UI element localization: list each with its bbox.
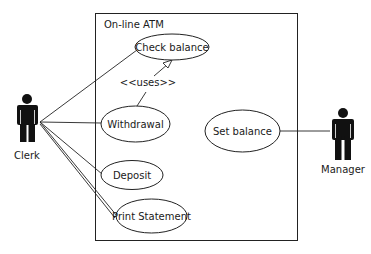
- actor-label-manager: Manager: [321, 164, 366, 175]
- actor-label-clerk: Clerk: [14, 150, 40, 161]
- uses-label: <<uses>>: [120, 77, 176, 88]
- person-icon: [332, 108, 354, 160]
- uses-dependency-line-lower: [137, 92, 146, 106]
- assoc-clerk-withdrawal: [40, 122, 101, 123]
- system-title: On-line ATM: [104, 19, 164, 30]
- use-case-check-balance: Check balance: [135, 34, 209, 60]
- use-case-print-statement: Print Statement: [112, 199, 191, 233]
- use-case-diagram: On-line ATM <<uses>> Check balance Withd…: [0, 0, 371, 254]
- associations: [40, 50, 330, 218]
- svg-text:Print Statement: Print Statement: [112, 211, 191, 222]
- svg-text:Set balance: Set balance: [213, 126, 272, 137]
- svg-text:Deposit: Deposit: [113, 170, 151, 181]
- svg-text:Withdrawal: Withdrawal: [107, 119, 163, 130]
- use-case-deposit: Deposit: [101, 161, 163, 190]
- svg-text:Check balance: Check balance: [135, 42, 208, 53]
- use-case-withdrawal: Withdrawal: [101, 106, 170, 142]
- actor-clerk: Clerk: [14, 94, 40, 161]
- use-case-set-balance: Set balance: [205, 110, 280, 152]
- actor-manager: Manager: [321, 108, 366, 175]
- assoc-clerk-deposit: [40, 122, 102, 174]
- person-icon: [17, 94, 38, 142]
